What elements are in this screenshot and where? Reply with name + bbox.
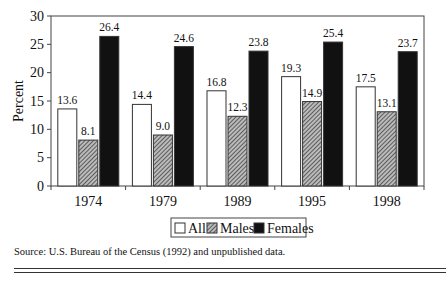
bar-females: [398, 52, 417, 186]
y-axis-label: Percent: [11, 80, 26, 122]
y-tick-label: 15: [30, 94, 44, 109]
legend-label: Females: [267, 221, 314, 236]
bar-males: [303, 102, 322, 186]
bar-females: [100, 36, 119, 186]
data-label: 24.6: [174, 32, 194, 44]
legend-label: All: [188, 221, 206, 236]
x-tick-label: 1998: [373, 194, 401, 209]
bar-females: [324, 42, 343, 186]
data-label: 17.5: [356, 72, 376, 84]
y-tick-label: 25: [30, 37, 44, 52]
bar-females: [174, 47, 193, 186]
bar-all: [282, 77, 301, 186]
data-label: 9.0: [156, 120, 171, 132]
data-label: 25.4: [323, 27, 343, 39]
bar-all: [356, 87, 375, 186]
divider-rule: [14, 272, 446, 273]
data-label: 23.8: [248, 36, 268, 48]
chart: 051015202530Percent19741979198919951998 …: [0, 0, 446, 285]
source-note: Source: U.S. Bureau of the Census (1992)…: [14, 246, 285, 257]
legend-swatch-all: [175, 223, 185, 233]
bar-males: [153, 135, 172, 186]
divider-rule: [14, 268, 446, 269]
bar-males: [79, 140, 98, 186]
bar-all: [207, 91, 226, 186]
data-label: 13.1: [377, 97, 397, 109]
legend-swatch-females: [254, 223, 264, 233]
data-label: 14.4: [132, 89, 152, 101]
x-tick-label: 1989: [224, 194, 252, 209]
y-tick-label: 0: [37, 179, 44, 194]
x-tick-label: 1974: [74, 194, 102, 209]
data-label: 16.8: [206, 76, 226, 88]
data-label: 13.6: [57, 94, 77, 106]
x-tick-label: 1995: [298, 194, 326, 209]
y-tick-label: 20: [30, 65, 44, 80]
data-label: 19.3: [281, 62, 301, 74]
legend-label: Males: [220, 221, 254, 236]
bar-females: [249, 51, 268, 186]
data-label: 8.1: [81, 125, 96, 137]
bar-all: [58, 109, 77, 186]
y-tick-label: 5: [37, 150, 44, 165]
data-label: 14.9: [302, 87, 322, 99]
y-tick-label: 10: [30, 122, 44, 137]
x-tick-label: 1979: [149, 194, 177, 209]
y-tick-label: 30: [30, 9, 44, 24]
data-label: 12.3: [227, 101, 247, 113]
legend-swatch-males: [207, 223, 217, 233]
bar-males: [377, 112, 396, 186]
bar-all: [132, 104, 151, 186]
data-label: 26.4: [99, 21, 119, 33]
bar-males: [228, 116, 247, 186]
data-label: 23.7: [398, 37, 418, 49]
